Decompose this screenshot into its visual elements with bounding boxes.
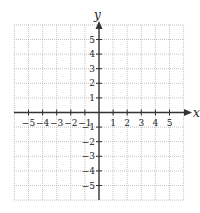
y-tick-label: −5 <box>82 181 96 191</box>
y-tick-label: 1 <box>89 93 95 103</box>
x-tick-label: 4 <box>153 118 159 128</box>
coordinate-plane: −5−4−3−2−11234554321−1−2−3−4−5 x y <box>0 0 200 213</box>
y-tick-label: 5 <box>89 35 95 45</box>
y-tick-label: −3 <box>82 151 96 161</box>
x-tick-label: −2 <box>64 118 77 128</box>
x-tick-label: −3 <box>50 118 64 128</box>
x-tick-label: 5 <box>167 118 173 128</box>
x-axis-arrow-icon <box>184 109 192 116</box>
x-tick-label: −5 <box>22 118 36 128</box>
y-tick-label: −2 <box>82 137 95 147</box>
x-tick-label: 3 <box>138 118 144 128</box>
x-tick-label: 1 <box>110 118 116 128</box>
y-axis-label: y <box>93 8 101 22</box>
y-tick-label: 3 <box>89 64 95 74</box>
y-tick-label: −1 <box>82 122 95 132</box>
y-tick-label: 4 <box>89 49 95 59</box>
y-tick-label: −4 <box>82 166 96 176</box>
axes <box>14 21 192 200</box>
x-tick-label: −4 <box>36 118 50 128</box>
y-tick-label: 2 <box>89 78 95 88</box>
x-tick-label: 2 <box>124 118 130 128</box>
x-axis-label: x <box>193 106 200 120</box>
